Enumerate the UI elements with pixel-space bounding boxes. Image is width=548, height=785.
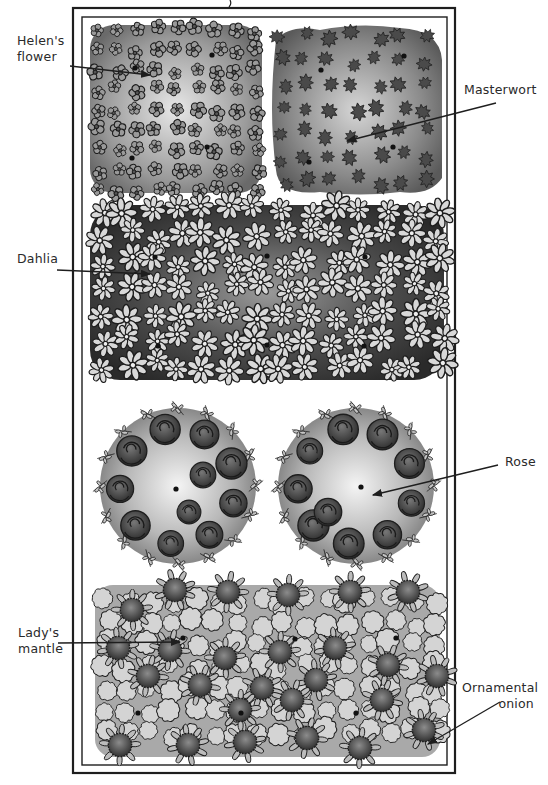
label-rose: Rose [505, 454, 536, 470]
masterwort-bed [269, 24, 442, 196]
label-masterwort: Masterwort [464, 82, 537, 98]
garden-plan-illustration [0, 0, 548, 785]
dahlia-bed [82, 186, 465, 388]
helens-flower-bed [86, 17, 268, 204]
rose-bed-left [93, 401, 263, 572]
label-ornamental-onion: Ornamental onion [462, 680, 534, 712]
label-dahlia: Dahlia [17, 251, 58, 267]
lady-mantle-onion-bed [87, 561, 466, 774]
label-helens-flower: Helen's flower [17, 33, 65, 65]
rose-bed-right [271, 401, 441, 572]
label-ladys-mantle: Lady's mantle [18, 625, 63, 657]
